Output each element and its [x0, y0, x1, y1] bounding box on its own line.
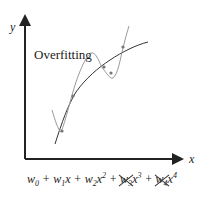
y-axis-label: y	[9, 20, 16, 34]
term-w3x3-crossed: w3x3	[120, 171, 141, 188]
term-w4x4-crossed: w4x4	[156, 171, 177, 188]
plus-sign: +	[42, 172, 50, 186]
plus-sign: +	[74, 172, 82, 186]
term-w2x2: w2x2	[85, 171, 106, 188]
plus-sign: +	[144, 172, 152, 186]
cross-out-icon: w4	[156, 172, 168, 188]
term-w0: w0	[27, 172, 39, 188]
overfit-curve	[52, 26, 129, 132]
diagram-title: Overfitting	[34, 47, 92, 62]
x-axis-label: x	[188, 152, 195, 166]
polynomial-formula: w0 + w1x + w2x2 + w3x3 + w4x4	[0, 171, 204, 188]
cross-out-icon: w3	[120, 172, 132, 188]
plus-sign: +	[109, 172, 117, 186]
term-w1x: w1x	[53, 172, 70, 188]
